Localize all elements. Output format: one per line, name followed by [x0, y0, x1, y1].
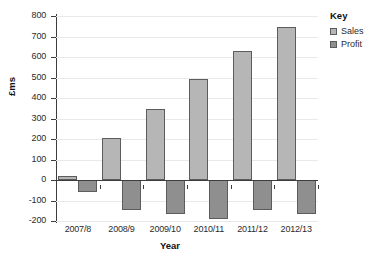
y-axis-tick — [51, 139, 56, 140]
x-axis-tick — [318, 185, 319, 189]
x-axis-category-label: 2012/13 — [272, 224, 320, 234]
legend-title: Key — [330, 10, 386, 21]
legend-label-profit: Profit — [341, 39, 362, 49]
legend-item-profit[interactable]: Profit — [330, 39, 386, 49]
bar-sales-2008-9 — [102, 138, 121, 180]
y-axis-tick-label: 800 — [6, 10, 46, 20]
y-axis-tick-label: 500 — [6, 72, 46, 82]
y-axis-tick-label: 200 — [6, 133, 46, 143]
bar-profit-2009-10 — [166, 180, 185, 214]
y-axis-tick-label: 400 — [6, 92, 46, 102]
legend-swatch-profit-icon — [330, 41, 337, 48]
bar-profit-2011-12 — [253, 180, 272, 210]
bar-profit-2008-9 — [122, 180, 141, 210]
bar-sales-2009-10 — [146, 109, 165, 180]
zero-axis-line — [56, 180, 318, 181]
x-axis-tick — [187, 185, 188, 189]
x-axis-tick — [231, 185, 232, 189]
y-axis-tick-label: -200 — [6, 215, 46, 225]
y-axis-tick — [51, 201, 56, 202]
y-axis-tick — [51, 160, 56, 161]
y-axis-tick — [51, 98, 56, 99]
y-axis-tick-label: 300 — [6, 113, 46, 123]
y-axis-tick-label: 0 — [6, 174, 46, 184]
legend-item-sales[interactable]: Sales — [330, 26, 386, 36]
y-axis-tick — [51, 57, 56, 58]
x-axis-tick — [143, 185, 144, 189]
gridline — [56, 221, 318, 222]
bar-chart: £ms 8007006005004003002001000-100-200 20… — [0, 0, 386, 261]
legend: Key Sales Profit — [330, 10, 386, 52]
x-axis-category-label: 2008/9 — [98, 224, 146, 234]
bar-profit-2007-8 — [78, 180, 97, 192]
x-axis-category-label: 2007/8 — [54, 224, 102, 234]
x-axis-tick — [100, 185, 101, 189]
y-axis-tick — [51, 221, 56, 222]
bar-sales-2011-12 — [233, 51, 252, 180]
bar-sales-2012-13 — [277, 27, 296, 180]
bar-profit-2010-11 — [209, 180, 228, 219]
x-axis-category-label: 2011/12 — [229, 224, 277, 234]
y-axis-tick-label: 600 — [6, 51, 46, 61]
legend-swatch-sales-icon — [330, 28, 337, 35]
y-axis-tick — [51, 37, 56, 38]
x-axis-category-label: 2010/11 — [185, 224, 233, 234]
bar-profit-2012-13 — [297, 180, 316, 214]
gridline — [56, 201, 318, 202]
y-axis-tick — [51, 119, 56, 120]
x-axis-category-label: 2009/10 — [141, 224, 189, 234]
y-axis-tick — [51, 16, 56, 17]
y-axis-tick-label: 700 — [6, 31, 46, 41]
y-axis-tick-label: 100 — [6, 154, 46, 164]
x-axis-title: Year — [0, 240, 340, 251]
gridline — [56, 16, 318, 17]
y-axis-tick-label: -100 — [6, 195, 46, 205]
bar-sales-2010-11 — [189, 79, 208, 180]
y-axis-tick — [51, 78, 56, 79]
x-axis-tick — [274, 185, 275, 189]
legend-label-sales: Sales — [341, 26, 364, 36]
